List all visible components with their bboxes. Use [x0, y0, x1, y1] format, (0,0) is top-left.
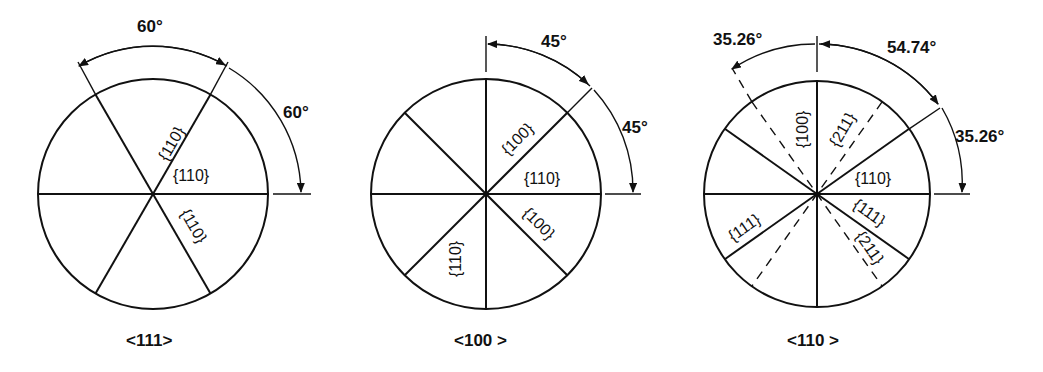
- plane-label: {111}: [725, 210, 764, 244]
- plane-label: {211}: [826, 109, 859, 149]
- plane-label: {100}: [794, 110, 811, 148]
- panel-110: 35.26° 54.74° 35.26° {100} {211} {110} {…: [704, 30, 1005, 350]
- orientation-caption: <100 >: [454, 331, 507, 350]
- angle-arc: [942, 108, 962, 192]
- plane-label: {110}: [173, 167, 210, 184]
- angle-label: 45°: [541, 32, 567, 51]
- extension-line: [78, 62, 96, 94]
- plane-label: {211}: [853, 228, 888, 268]
- angle-arc: [79, 46, 225, 66]
- angle-label: 35.26°: [955, 127, 1005, 146]
- angle-arc: [229, 68, 301, 192]
- angle-label: 60°: [283, 103, 309, 122]
- extension-line: [567, 88, 592, 113]
- extension-line: [211, 62, 229, 94]
- angle-label: 60°: [137, 17, 163, 36]
- plane-label: {110}: [177, 206, 210, 246]
- panel-111: 60° 60° {110} {110} {110} <111>: [38, 17, 311, 350]
- extension-line: [732, 68, 752, 102]
- plane-label: {100}: [520, 204, 559, 243]
- panel-100: 45° 45° {100} {110} {100} {110} <100 >: [371, 32, 648, 350]
- plane-label: {100}: [498, 119, 537, 158]
- extension-line: [909, 108, 940, 129]
- angle-arc: [488, 44, 588, 84]
- orientation-caption: <111>: [126, 331, 172, 350]
- plane-label: {111}: [850, 196, 889, 230]
- angle-label: 45°: [622, 118, 648, 137]
- plane-label: {110}: [855, 170, 892, 187]
- orientation-caption: <110 >: [787, 331, 839, 350]
- diagram-canvas: 60° 60° {110} {110} {110} <111> 45° 45° …: [0, 0, 1043, 372]
- plane-label: {110}: [524, 170, 561, 187]
- plane-label: {110}: [447, 240, 464, 277]
- angle-label: 35.26°: [713, 30, 763, 49]
- angle-label: 54.74°: [887, 38, 937, 57]
